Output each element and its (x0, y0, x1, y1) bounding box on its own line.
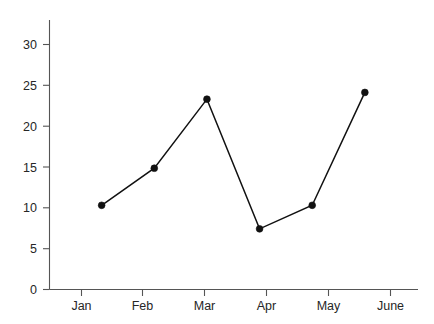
y-tick-label-0: 0 (30, 283, 37, 297)
y-tick-label-5: 5 (30, 242, 37, 256)
data-point-jan (98, 202, 105, 209)
x-tick-label-may: May (317, 299, 341, 313)
data-point-june (361, 89, 368, 96)
line-chart: 0 5 10 15 20 25 30 Jan Feb Mar Apr May J… (0, 0, 434, 324)
data-point-may (309, 202, 316, 209)
data-point-apr (256, 225, 263, 232)
x-tick-label-apr: Apr (257, 299, 276, 313)
chart-background (0, 0, 434, 324)
x-tick-label-feb: Feb (132, 299, 154, 313)
chart-canvas: 0 5 10 15 20 25 30 Jan Feb Mar Apr May J… (0, 0, 434, 324)
y-tick-label-10: 10 (23, 201, 37, 215)
y-tick-label-30: 30 (23, 38, 37, 52)
y-tick-label-15: 15 (23, 161, 37, 175)
x-tick-label-mar: Mar (194, 299, 216, 313)
x-tick-label-jan: Jan (71, 299, 91, 313)
y-tick-label-20: 20 (23, 120, 37, 134)
x-tick-label-june: June (377, 299, 404, 313)
data-point-mar (204, 96, 211, 103)
y-tick-label-25: 25 (23, 79, 37, 93)
data-point-feb (151, 165, 158, 172)
